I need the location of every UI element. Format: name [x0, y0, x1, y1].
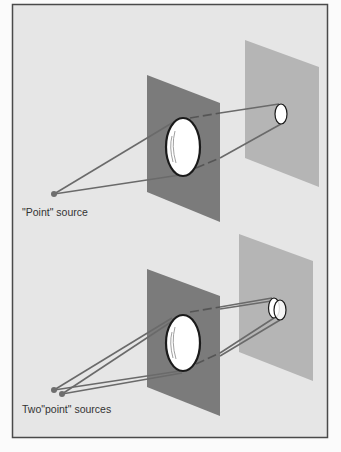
- point-source: [59, 391, 65, 397]
- point-source: [51, 191, 57, 197]
- optics-diagram: "Point" source Two"point" sources: [0, 0, 341, 452]
- point-source-label: "Point" source: [22, 206, 88, 218]
- image-spot: [275, 104, 287, 124]
- two-point-sources-label: Two"point" sources: [22, 403, 111, 415]
- image-spot: [274, 300, 286, 320]
- point-source: [51, 387, 57, 393]
